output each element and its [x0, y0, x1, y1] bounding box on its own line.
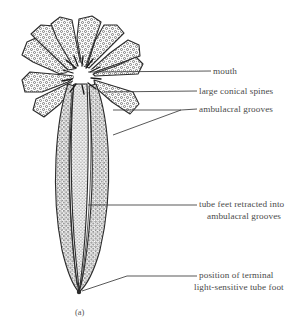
label-ambulacral-grooves: ambulacral grooves — [199, 104, 273, 116]
label-tube-feet-line1: tube feet retracted into — [199, 199, 284, 211]
leader-line-terminal — [82, 276, 197, 291]
figure-caption: (a) — [75, 307, 84, 317]
label-mouth: mouth — [213, 66, 237, 78]
terminal-tube-foot-tip — [77, 290, 81, 294]
figure-page: mouth large conical spines ambulacral gr… — [0, 0, 306, 324]
leader-line-grooves-fork — [113, 109, 197, 135]
label-tube-feet-line2: ambulacral grooves — [207, 211, 281, 223]
label-large-conical-spines: large conical spines — [199, 86, 273, 98]
label-terminal-line1: position of terminal — [199, 270, 273, 282]
label-terminal-line2: light-sensitive tube foot — [194, 282, 284, 294]
starfish-trunk-group — [55, 84, 108, 294]
